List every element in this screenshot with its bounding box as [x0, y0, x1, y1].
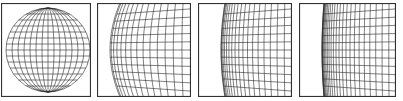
panel-limb-zoom-3: [299, 3, 396, 97]
panel-sphere: [1, 3, 91, 97]
panel-limb-zoom-1: [97, 3, 191, 97]
limb-grid-diagram-3: [299, 3, 396, 97]
panel-limb-zoom-2: [198, 3, 292, 97]
limb-grid-diagram-2: [198, 3, 292, 97]
sphere-grid-diagram: [1, 3, 91, 97]
limb-grid-diagram-1: [97, 3, 191, 97]
